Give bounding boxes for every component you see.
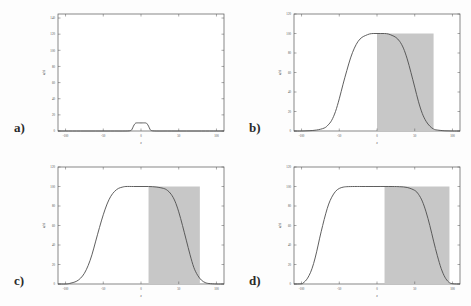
x-tick-label: -50 <box>101 287 106 291</box>
y-tick-label: 120 <box>286 165 291 169</box>
x-tick-label: 50 <box>177 134 181 138</box>
y-tick-label: 20 <box>52 113 56 117</box>
y-axis-title: u(x) <box>42 223 46 228</box>
figure-four-panel-plots: -100-50050100020406080100120140xu(x) a) … <box>0 0 471 306</box>
x-axis-title: x <box>139 294 142 298</box>
y-axis-title: u(x) <box>42 70 46 75</box>
y-tick-label: 100 <box>50 49 55 53</box>
y-axis-title: u(x) <box>278 223 282 228</box>
x-tick-label: 0 <box>140 134 142 138</box>
y-tick-label: 80 <box>52 65 56 69</box>
y-tick-label: 60 <box>288 71 292 75</box>
y-tick-label: 20 <box>288 263 292 267</box>
x-axis-title: x <box>139 141 142 145</box>
y-tick-label: 0 <box>53 282 55 286</box>
panel-a-label: a) <box>14 120 25 136</box>
x-tick-label: 100 <box>450 134 455 138</box>
y-tick-label: 0 <box>289 282 291 286</box>
x-tick-label: 0 <box>376 287 378 291</box>
panel-b-label: b) <box>249 120 261 136</box>
panel-d: -100-50050100020406080100120xu(x) <box>236 153 471 306</box>
y-tick-label: 0 <box>289 129 291 133</box>
y-tick-label: 100 <box>286 185 291 189</box>
panel-a-plot: -100-50050100020406080100120140xu(x) <box>0 0 235 153</box>
x-axis-title: x <box>375 141 378 145</box>
y-tick-label: 20 <box>288 110 292 114</box>
panel-b-plot: -100-50050100020406080100120xu(x) <box>236 0 471 153</box>
x-tick-label: -50 <box>337 287 342 291</box>
x-tick-label: 100 <box>450 287 455 291</box>
plot-frame <box>58 14 224 131</box>
y-tick-label: 80 <box>288 204 292 208</box>
y-tick-label: 20 <box>52 263 56 267</box>
panel-d-plot: -100-50050100020406080100120xu(x) <box>236 153 471 306</box>
panel-c-plot: -100-50050100020406080100120xu(x) <box>0 153 235 306</box>
x-tick-label: 100 <box>214 287 219 291</box>
panel-b: -100-50050100020406080100120xu(x) <box>236 0 471 153</box>
y-tick-label: 40 <box>52 243 56 247</box>
y-tick-label: 40 <box>288 243 292 247</box>
y-tick-label: 0 <box>53 129 55 133</box>
panel-c: -100-50050100020406080100120xu(x) <box>0 153 235 306</box>
x-tick-label: -50 <box>101 134 106 138</box>
shaded-region <box>385 187 450 285</box>
y-tick-label: 100 <box>286 32 291 36</box>
shaded-region <box>149 187 200 285</box>
y-tick-label: 40 <box>288 90 292 94</box>
y-tick-label: 60 <box>52 81 56 85</box>
x-tick-label: -100 <box>63 134 69 138</box>
panel-c-label: c) <box>14 273 24 289</box>
x-tick-label: 50 <box>413 287 417 291</box>
x-tick-label: -50 <box>337 134 342 138</box>
y-tick-label: 100 <box>50 185 55 189</box>
y-tick-label: 120 <box>286 12 291 16</box>
y-tick-label: 120 <box>50 32 55 36</box>
shaded-region <box>377 34 434 132</box>
x-tick-label: 0 <box>140 287 142 291</box>
x-tick-label: 100 <box>214 134 219 138</box>
y-tick-label: 40 <box>52 97 56 101</box>
x-tick-label: -100 <box>299 134 305 138</box>
x-tick-label: 50 <box>413 134 417 138</box>
y-tick-label: 80 <box>52 204 56 208</box>
y-tick-label: 60 <box>52 224 56 228</box>
x-tick-label: 0 <box>376 134 378 138</box>
x-tick-label: -100 <box>63 287 69 291</box>
y-axis-title: u(x) <box>278 70 282 75</box>
x-tick-label: 50 <box>177 287 181 291</box>
x-axis-title: x <box>375 294 378 298</box>
panel-a: -100-50050100020406080100120140xu(x) <box>0 0 235 153</box>
y-tick-label: 60 <box>288 224 292 228</box>
panel-d-label: d) <box>249 273 261 289</box>
x-tick-label: -100 <box>299 287 305 291</box>
y-tick-label: 80 <box>288 51 292 55</box>
y-tick-label: 120 <box>50 165 55 169</box>
y-tick-label: 140 <box>50 16 55 20</box>
